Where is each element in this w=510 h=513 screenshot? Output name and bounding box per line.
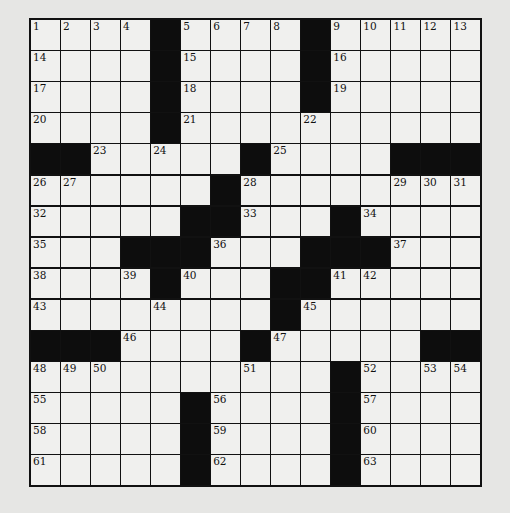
grid-cell[interactable] <box>451 82 480 112</box>
grid-cell[interactable] <box>121 176 150 206</box>
grid-cell[interactable]: 44 <box>151 300 180 330</box>
grid-cell[interactable]: 31 <box>451 176 480 206</box>
grid-cell[interactable] <box>241 269 270 299</box>
grid-cell[interactable]: 41 <box>331 269 360 299</box>
grid-cell[interactable] <box>121 144 150 174</box>
grid-cell[interactable]: 29 <box>391 176 420 206</box>
grid-cell[interactable] <box>301 424 330 454</box>
grid-cell[interactable]: 51 <box>241 362 270 392</box>
grid-cell[interactable] <box>391 362 420 392</box>
grid-cell[interactable]: 17 <box>31 82 60 112</box>
grid-cell[interactable]: 18 <box>181 82 210 112</box>
grid-cell[interactable] <box>451 455 480 485</box>
grid-cell[interactable] <box>211 362 240 392</box>
grid-cell[interactable] <box>61 82 90 112</box>
grid-cell[interactable]: 3 <box>91 20 120 50</box>
grid-cell[interactable] <box>121 393 150 423</box>
grid-cell[interactable] <box>61 238 90 268</box>
grid-cell[interactable] <box>91 238 120 268</box>
grid-cell[interactable] <box>121 300 150 330</box>
grid-cell[interactable] <box>361 144 390 174</box>
grid-cell[interactable] <box>61 455 90 485</box>
grid-cell[interactable] <box>361 82 390 112</box>
grid-cell[interactable]: 52 <box>361 362 390 392</box>
grid-cell[interactable]: 46 <box>121 331 150 361</box>
grid-cell[interactable] <box>301 362 330 392</box>
grid-cell[interactable]: 58 <box>31 424 60 454</box>
grid-cell[interactable]: 6 <box>211 20 240 50</box>
grid-cell[interactable] <box>391 455 420 485</box>
grid-cell[interactable] <box>61 393 90 423</box>
grid-cell[interactable] <box>151 455 180 485</box>
grid-cell[interactable]: 8 <box>271 20 300 50</box>
grid-cell[interactable]: 54 <box>451 362 480 392</box>
grid-cell[interactable]: 16 <box>331 51 360 81</box>
grid-cell[interactable] <box>421 455 450 485</box>
grid-cell[interactable] <box>421 238 450 268</box>
grid-cell[interactable]: 4 <box>121 20 150 50</box>
grid-cell[interactable] <box>361 300 390 330</box>
grid-cell[interactable] <box>211 331 240 361</box>
grid-cell[interactable]: 10 <box>361 20 390 50</box>
grid-cell[interactable] <box>181 331 210 361</box>
grid-cell[interactable] <box>271 238 300 268</box>
grid-cell[interactable]: 50 <box>91 362 120 392</box>
grid-cell[interactable] <box>271 424 300 454</box>
grid-cell[interactable] <box>91 176 120 206</box>
grid-cell[interactable]: 26 <box>31 176 60 206</box>
grid-cell[interactable] <box>121 51 150 81</box>
grid-cell[interactable] <box>91 269 120 299</box>
grid-cell[interactable]: 9 <box>331 20 360 50</box>
grid-cell[interactable] <box>331 113 360 143</box>
grid-cell[interactable] <box>271 176 300 206</box>
grid-cell[interactable] <box>61 424 90 454</box>
grid-cell[interactable]: 23 <box>91 144 120 174</box>
grid-cell[interactable] <box>451 393 480 423</box>
grid-cell[interactable]: 37 <box>391 238 420 268</box>
grid-cell[interactable] <box>61 269 90 299</box>
grid-cell[interactable] <box>61 113 90 143</box>
grid-cell[interactable] <box>301 176 330 206</box>
grid-cell[interactable]: 12 <box>421 20 450 50</box>
grid-cell[interactable] <box>331 144 360 174</box>
grid-cell[interactable] <box>301 331 330 361</box>
grid-cell[interactable] <box>241 300 270 330</box>
grid-cell[interactable] <box>211 144 240 174</box>
grid-cell[interactable]: 40 <box>181 269 210 299</box>
grid-cell[interactable] <box>271 455 300 485</box>
grid-cell[interactable]: 33 <box>241 207 270 237</box>
grid-cell[interactable] <box>391 424 420 454</box>
grid-cell[interactable] <box>241 82 270 112</box>
grid-cell[interactable] <box>421 300 450 330</box>
grid-cell[interactable] <box>361 176 390 206</box>
grid-cell[interactable]: 56 <box>211 393 240 423</box>
grid-cell[interactable]: 28 <box>241 176 270 206</box>
grid-cell[interactable] <box>421 113 450 143</box>
grid-cell[interactable] <box>241 455 270 485</box>
grid-cell[interactable] <box>361 113 390 143</box>
grid-cell[interactable]: 21 <box>181 113 210 143</box>
grid-cell[interactable]: 35 <box>31 238 60 268</box>
grid-cell[interactable] <box>271 393 300 423</box>
grid-cell[interactable] <box>391 51 420 81</box>
grid-cell[interactable]: 7 <box>241 20 270 50</box>
grid-cell[interactable] <box>271 113 300 143</box>
grid-cell[interactable] <box>151 176 180 206</box>
grid-cell[interactable] <box>361 51 390 81</box>
grid-cell[interactable]: 55 <box>31 393 60 423</box>
grid-cell[interactable]: 60 <box>361 424 390 454</box>
grid-cell[interactable] <box>211 300 240 330</box>
grid-cell[interactable]: 14 <box>31 51 60 81</box>
grid-cell[interactable]: 43 <box>31 300 60 330</box>
grid-cell[interactable] <box>91 424 120 454</box>
grid-cell[interactable] <box>271 82 300 112</box>
grid-cell[interactable] <box>421 269 450 299</box>
grid-cell[interactable] <box>301 207 330 237</box>
grid-cell[interactable] <box>61 207 90 237</box>
grid-cell[interactable] <box>211 269 240 299</box>
grid-cell[interactable]: 49 <box>61 362 90 392</box>
grid-cell[interactable]: 38 <box>31 269 60 299</box>
grid-cell[interactable]: 34 <box>361 207 390 237</box>
grid-cell[interactable]: 42 <box>361 269 390 299</box>
grid-cell[interactable] <box>421 82 450 112</box>
